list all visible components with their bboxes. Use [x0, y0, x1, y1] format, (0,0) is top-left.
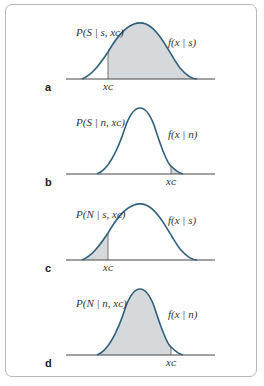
curve-label: f(x | s)	[168, 214, 196, 227]
prob-label: P(S | n, xᴄ)	[75, 116, 125, 129]
panel-letter: d	[45, 357, 52, 369]
threshold-label: xᴄ	[165, 356, 177, 368]
panel-letter: a	[45, 81, 52, 93]
curve-label: f(x | s)	[168, 36, 196, 49]
prob-label: P(S | s, xᴄ)	[75, 26, 124, 39]
panel-a: P(S | s, xᴄ) f(x | s) xᴄ a	[45, 23, 215, 93]
prob-label: P(N | n, xᴄ)	[75, 297, 127, 310]
curve-label: f(x | n)	[168, 128, 198, 141]
panel-d: P(N | n, xᴄ) f(x | n) xᴄ d	[45, 289, 215, 369]
sdt-diagram: P(S | s, xᴄ) f(x | s) xᴄ a P(S | n, xᴄ) …	[0, 0, 264, 386]
threshold-label: xᴄ	[102, 261, 114, 273]
panel-letter: b	[45, 176, 52, 188]
prob-label: P(N | s, xᴄ)	[75, 208, 126, 221]
shaded-area	[82, 233, 108, 260]
panel-c: P(N | s, xᴄ) f(x | s) xᴄ c	[45, 204, 215, 274]
curve-label: f(x | n)	[168, 308, 198, 321]
panel-letter: c	[45, 262, 51, 274]
threshold-label: xᴄ	[165, 175, 177, 187]
panel-b: P(S | n, xᴄ) f(x | n) xᴄ b	[45, 108, 215, 188]
threshold-label: xᴄ	[102, 80, 114, 92]
